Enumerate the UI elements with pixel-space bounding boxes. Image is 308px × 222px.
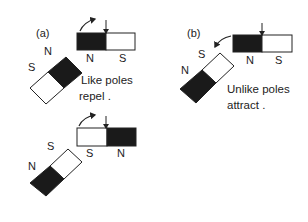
pole-label: S bbox=[275, 54, 282, 66]
panel-a-top: (a) N S N S Like poles repel . bbox=[28, 19, 135, 104]
caption-line-2: attract . bbox=[227, 99, 265, 111]
north-pole-block bbox=[107, 128, 136, 146]
panel-a-label: (a) bbox=[36, 27, 49, 39]
pole-label: N bbox=[86, 52, 94, 64]
panel-b-label: (b) bbox=[187, 27, 200, 39]
tilted-magnet-a-bottom bbox=[30, 149, 82, 196]
fixed-magnet-a-top bbox=[77, 33, 135, 50]
pole-label: N bbox=[117, 147, 125, 159]
pole-label: S bbox=[86, 147, 93, 159]
panel-b: (b) N S S N Unlike poles attract . bbox=[180, 23, 292, 111]
pole-label: N bbox=[44, 45, 52, 57]
rotation-arrow-icon bbox=[79, 115, 95, 126]
rotation-arrow-icon bbox=[80, 19, 95, 31]
rotation-arrow-icon bbox=[215, 36, 231, 47]
south-pole-block bbox=[262, 35, 292, 52]
caption-line-1: Like poles bbox=[81, 74, 133, 86]
tilted-magnet-a-top bbox=[30, 57, 82, 104]
pole-label: S bbox=[119, 52, 126, 64]
fixed-magnet-b bbox=[233, 35, 292, 52]
south-pole-block bbox=[77, 128, 107, 146]
caption-line-1: Unlike poles bbox=[227, 83, 290, 95]
pole-label: S bbox=[47, 140, 54, 152]
fixed-magnet-a-bottom bbox=[77, 128, 136, 146]
north-pole-block bbox=[77, 33, 106, 50]
pole-label: N bbox=[28, 160, 36, 172]
caption-line-2: repel . bbox=[79, 90, 111, 102]
south-pole-block bbox=[106, 33, 135, 50]
panel-a-bottom: S N S N bbox=[28, 115, 136, 196]
pole-label: N bbox=[246, 54, 254, 66]
pole-label: S bbox=[198, 48, 205, 60]
north-pole-block bbox=[233, 35, 262, 52]
magnet-poles-diagram: (a) N S N S Like poles repel . S N bbox=[0, 0, 308, 222]
pole-label: N bbox=[181, 64, 189, 76]
pole-label: S bbox=[28, 61, 35, 73]
tilted-magnet-b bbox=[180, 53, 234, 103]
